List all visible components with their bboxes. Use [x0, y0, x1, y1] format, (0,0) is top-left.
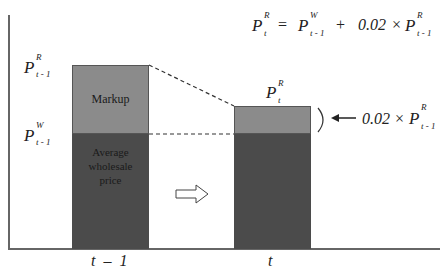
formula: P R t = P W t - 1 + 0.02 × P R t - 1 — [252, 12, 442, 42]
label-retail-t: P R t — [266, 78, 296, 106]
label-retail-t-minus-1: P R t - 1 — [24, 52, 68, 82]
markup-change-annotation: 0.02 × P R t - 1 — [362, 108, 442, 138]
left-arrow-icon — [331, 114, 339, 122]
x-label-t-minus-1: t – 1 — [91, 252, 127, 270]
bracket-icon — [318, 108, 323, 132]
right-arrow-icon — [176, 185, 208, 203]
label-wholesale-t-minus-1: P W t - 1 — [24, 120, 68, 150]
x-label-t: t — [268, 252, 272, 270]
retail-price-dashed-line — [149, 65, 234, 106]
